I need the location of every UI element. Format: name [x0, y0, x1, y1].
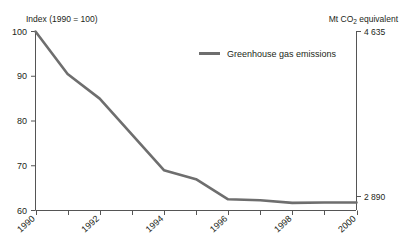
x-axis-tick-labels: 199019921994199619982000	[15, 214, 358, 235]
legend-item-label: Greenhouse gas emissions	[227, 49, 337, 59]
left-axis-title: Index (1990 = 100)	[26, 14, 98, 24]
greenhouse-gas-emissions-line-chart: Index (1990 = 100) Mt CO2 equivalent 100…	[0, 0, 406, 247]
right-axis-title: Mt CO2 equivalent	[329, 14, 399, 25]
x-tick-label-2000: 2000	[336, 214, 358, 235]
y-axis-tick-labels: 100 90 80 70 60	[12, 27, 27, 216]
y-tick-label-60: 60	[17, 206, 27, 216]
y-tick-label-90: 90	[17, 71, 27, 81]
x-tick-label-1994: 1994	[144, 214, 166, 235]
right-axis-top-value: 4 635	[364, 27, 386, 37]
x-tick-label-1998: 1998	[272, 214, 294, 235]
x-axis-ticks	[37, 211, 358, 216]
right-axis-title-suffix: equivalent	[357, 14, 399, 24]
right-axis-ticks	[357, 32, 362, 197]
legend: Greenhouse gas emissions	[199, 49, 337, 59]
x-tick-label-1990: 1990	[15, 214, 37, 235]
y-tick-label-100: 100	[12, 27, 27, 37]
x-tick-label-1992: 1992	[79, 214, 101, 235]
x-tick-label-1996: 1996	[208, 214, 230, 235]
y-axis-ticks	[31, 32, 36, 211]
y-tick-label-70: 70	[17, 161, 27, 171]
right-axis-title-prefix: Mt CO	[329, 14, 354, 24]
chart-container: Index (1990 = 100) Mt CO2 equivalent 100…	[0, 0, 406, 247]
right-axis-bottom-value: 2 890	[364, 192, 386, 202]
y-tick-label-80: 80	[17, 116, 27, 126]
